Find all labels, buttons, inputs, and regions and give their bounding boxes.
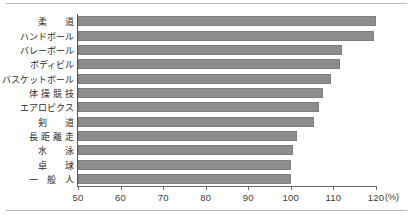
- bar: [78, 145, 293, 155]
- category-label: 剣 道: [38, 115, 74, 128]
- bar-row: バスケットボール: [78, 74, 376, 84]
- x-axis-line: [77, 186, 377, 187]
- bar-row: 体 操 競 技: [78, 88, 376, 98]
- category-label: ボディビル: [30, 58, 74, 71]
- plot-area: 柔 道ハンドボールバレーボールボディビルバスケットボール体 操 競 技エアロビク…: [78, 14, 376, 186]
- x-tick-70: [163, 186, 164, 190]
- x-tick-60: [121, 186, 122, 190]
- bar-row: エアロビクス: [78, 102, 376, 112]
- x-tick-label-70: 70: [158, 192, 169, 203]
- x-axis-unit-label: (%): [385, 192, 399, 202]
- category-label: バレーボール: [20, 43, 74, 56]
- x-tick-label-60: 60: [115, 192, 126, 203]
- bar-row: 卓 球: [78, 160, 376, 170]
- bar-row: 一 般 人: [78, 174, 376, 184]
- category-label: 卓 球: [38, 158, 74, 171]
- bottom-divider-rule: [6, 210, 407, 211]
- bar-row: バレーボール: [78, 45, 376, 55]
- bar-row: 長 距 離 走: [78, 131, 376, 141]
- x-tick-120: [376, 186, 377, 190]
- bar: [78, 45, 342, 55]
- chart-figure: 柔 道ハンドボールバレーボールボディビルバスケットボール体 操 競 技エアロビク…: [0, 0, 413, 217]
- top-divider-rule: [6, 3, 407, 4]
- category-label: エアロビクス: [20, 101, 74, 114]
- x-tick-50: [78, 186, 79, 190]
- bar: [78, 16, 376, 26]
- x-tick-label-120: 120: [368, 192, 384, 203]
- x-tick-80: [206, 186, 207, 190]
- bar-row: ボディビル: [78, 59, 376, 69]
- category-label: 水 泳: [38, 144, 74, 157]
- bar: [78, 31, 374, 41]
- bar: [78, 102, 319, 112]
- category-label: 体 操 競 技: [29, 86, 74, 99]
- x-tick-label-90: 90: [243, 192, 254, 203]
- bar-row: ハンドボール: [78, 31, 376, 41]
- bar: [78, 74, 331, 84]
- x-tick-label-100: 100: [283, 192, 299, 203]
- bar-row: 水 泳: [78, 145, 376, 155]
- x-tick-90: [248, 186, 249, 190]
- bar-row: 柔 道: [78, 16, 376, 26]
- bar: [78, 160, 291, 170]
- bar: [78, 88, 323, 98]
- bar-row: 剣 道: [78, 117, 376, 127]
- category-label: 一 般 人: [29, 172, 74, 185]
- x-tick-100: [291, 186, 292, 190]
- bar: [78, 117, 314, 127]
- x-tick-label-80: 80: [200, 192, 211, 203]
- category-label: バスケットボール: [2, 72, 74, 85]
- x-tick-label-110: 110: [326, 192, 342, 203]
- category-label: ハンドボール: [20, 29, 74, 42]
- bar: [78, 59, 340, 69]
- bar: [78, 174, 291, 184]
- x-tick-label-50: 50: [73, 192, 84, 203]
- bar: [78, 131, 297, 141]
- x-tick-110: [333, 186, 334, 190]
- category-label: 柔 道: [38, 15, 74, 28]
- category-label: 長 距 離 走: [29, 129, 74, 142]
